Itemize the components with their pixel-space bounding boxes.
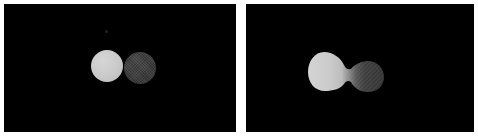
peanut-svg bbox=[306, 48, 386, 92]
panel-left[interactable] bbox=[4, 4, 236, 132]
panel-right[interactable] bbox=[246, 4, 474, 132]
panel-row bbox=[4, 4, 474, 132]
dither-texture bbox=[124, 52, 156, 84]
faint-speck bbox=[105, 30, 108, 33]
merged-peanut-blob[interactable] bbox=[306, 48, 386, 92]
light-blob[interactable] bbox=[91, 50, 123, 82]
figure-root bbox=[0, 0, 478, 136]
dark-blob[interactable] bbox=[124, 52, 156, 84]
peanut-dither-texture bbox=[306, 48, 386, 92]
